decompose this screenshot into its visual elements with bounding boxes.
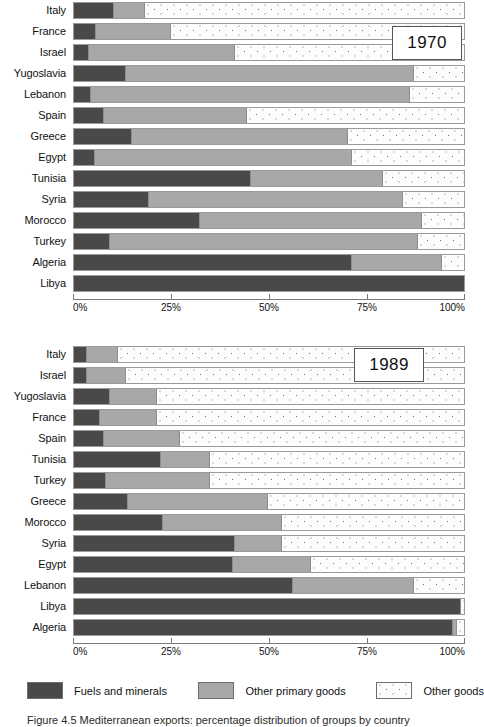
bar-segment-primary	[103, 108, 245, 123]
bar-segment-other	[144, 3, 464, 18]
axis-tick	[269, 294, 270, 300]
bar-row: Morocco	[0, 210, 484, 230]
bar-track	[73, 619, 465, 636]
bar-row-label: Greece	[0, 131, 73, 142]
bar-row: Greece	[0, 491, 484, 511]
bar-segment-other	[456, 620, 464, 635]
bar-segment-other	[156, 389, 464, 404]
bar-row: France	[0, 407, 484, 427]
bar-segment-fuels	[74, 45, 88, 60]
legend-item-primary: Other primary goods	[198, 682, 345, 699]
bar-row-label: Italy	[0, 349, 73, 360]
bar-row-label: Egypt	[0, 559, 73, 570]
bar-segment-primary	[90, 87, 410, 102]
axis-tick-label: 50%	[259, 647, 279, 657]
bar-segment-fuels	[74, 557, 232, 572]
bar-rows-1989: ItalyIsraelYugoslaviaFranceSpainTunisiaT…	[0, 344, 484, 637]
bar-segment-primary	[95, 24, 169, 39]
bar-track	[73, 535, 465, 552]
bar-row: Syria	[0, 533, 484, 553]
bar-segment-fuels	[74, 452, 160, 467]
axis-tick	[367, 294, 368, 300]
legend-swatch-primary	[198, 682, 234, 699]
bar-track	[73, 254, 465, 271]
axis-tick	[171, 294, 172, 300]
axis-tick-label: 75%	[357, 303, 377, 313]
bar-track	[73, 170, 465, 187]
bar-row-label: Libya	[0, 601, 73, 612]
bar-segment-fuels	[74, 234, 109, 249]
bar-row-label: Spain	[0, 433, 73, 444]
bar-row-label: Egypt	[0, 152, 73, 163]
bar-row-label: Israel	[0, 370, 73, 381]
bar-segment-other	[417, 234, 464, 249]
bar-row-label: Lebanon	[0, 580, 73, 591]
bar-segment-other	[413, 578, 464, 593]
bar-track	[73, 275, 465, 292]
bar-segment-fuels	[74, 171, 250, 186]
bar-row-label: Turkey	[0, 475, 73, 486]
bar-segment-fuels	[74, 431, 103, 446]
bar-segment-other	[441, 255, 464, 270]
bar-track	[73, 409, 465, 426]
bar-row: Egypt	[0, 554, 484, 574]
bar-segment-fuels	[74, 150, 94, 165]
axis-tick	[464, 638, 465, 644]
bar-row-label: Greece	[0, 496, 73, 507]
bar-row-label: Tunisia	[0, 173, 73, 184]
bar-segment-primary	[86, 347, 117, 362]
bar-row: Tunisia	[0, 168, 484, 188]
bar-segment-other	[179, 431, 464, 446]
bar-row-label: Syria	[0, 194, 73, 205]
legend-swatch-fuels	[27, 682, 63, 699]
bar-row: Lebanon	[0, 575, 484, 595]
bar-segment-other	[209, 452, 464, 467]
bar-segment-primary	[113, 3, 144, 18]
bar-track	[73, 430, 465, 447]
bar-segment-fuels	[74, 515, 162, 530]
bar-segment-primary	[160, 452, 209, 467]
bar-segment-primary	[94, 150, 351, 165]
bar-row-label: Turkey	[0, 236, 73, 247]
bar-segment-fuels	[74, 347, 86, 362]
bar-track	[73, 577, 465, 594]
bar-track	[73, 212, 465, 229]
bar-segment-other	[413, 66, 464, 81]
bar-segment-primary	[234, 536, 281, 551]
x-axis-1970: 0%25%50%75%100%	[73, 294, 465, 320]
legend-label-fuels: Fuels and minerals	[74, 685, 167, 697]
year-badge-1989: 1989	[354, 348, 424, 382]
bar-segment-primary	[88, 45, 234, 60]
bar-segment-primary	[127, 494, 267, 509]
bar-segment-other	[421, 213, 464, 228]
bar-row: Turkey	[0, 470, 484, 490]
bar-segment-fuels	[74, 129, 131, 144]
bar-segment-primary	[109, 234, 417, 249]
bar-segment-fuels	[74, 389, 109, 404]
bar-row: Egypt	[0, 147, 484, 167]
figure-caption: Figure 4.5 Mediterranean exports: percen…	[0, 713, 484, 727]
bar-row-label: Morocco	[0, 215, 73, 226]
bar-track	[73, 191, 465, 208]
bar-segment-other	[409, 87, 464, 102]
bar-row-label: Spain	[0, 110, 73, 121]
axis-tick	[73, 638, 74, 644]
bar-segment-fuels	[74, 620, 452, 635]
bar-segment-primary	[125, 66, 414, 81]
bar-row-label: Yugoslavia	[0, 68, 73, 79]
bar-segment-primary	[250, 171, 383, 186]
axis-tick	[269, 638, 270, 644]
chart-panel-1970: ItalyFranceIsraelYugoslaviaLebanonSpainG…	[0, 0, 484, 320]
bar-segment-other	[402, 192, 464, 207]
bar-track	[73, 472, 465, 489]
axis-tick	[171, 638, 172, 644]
bar-segment-fuels	[74, 108, 103, 123]
bar-track	[73, 128, 465, 145]
bar-segment-fuels	[74, 410, 99, 425]
bar-row: Spain	[0, 105, 484, 125]
legend-label-other: Other goods	[423, 685, 484, 697]
bar-segment-fuels	[74, 578, 292, 593]
axis-tick-label: 25%	[161, 647, 181, 657]
bar-row-label: Syria	[0, 538, 73, 549]
bar-row-label: Italy	[0, 5, 73, 16]
